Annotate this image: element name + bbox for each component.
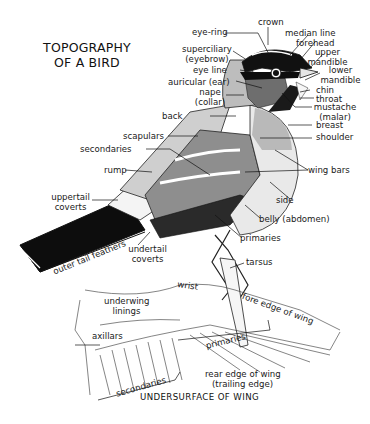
breast-shade	[252, 108, 292, 150]
label-uppertail-coverts: uppertail coverts	[48, 193, 93, 212]
label-breast: breast	[316, 121, 343, 131]
label-wing-bars: wing bars	[308, 166, 350, 176]
label-undertail-coverts-2: coverts	[125, 255, 170, 265]
label-crown: crown	[258, 18, 284, 28]
label-primaries: primaries	[240, 234, 281, 244]
label-eye-line: eye line	[193, 66, 227, 76]
label-tarsus: tarsus	[246, 258, 273, 268]
label-lower-mandible-2: mandible	[318, 76, 363, 86]
label-side: side	[276, 196, 294, 206]
label-rump: rump	[104, 166, 127, 176]
label-superciliary-alt: (eyebrow)	[178, 55, 236, 65]
label-secondaries: secondaries	[80, 145, 132, 155]
label-rear-edge: rear edge of wing (trailing edge)	[205, 370, 280, 389]
label-superciliary: superciliary (eyebrow)	[178, 45, 236, 64]
eye-shape	[273, 70, 279, 76]
label-underwing-linings: underwing linings	[104, 297, 149, 316]
label-scapulars: scapulars	[123, 132, 164, 142]
bill-shape	[300, 68, 318, 78]
label-nape: nape (collar)	[190, 88, 230, 107]
label-back: back	[162, 112, 182, 122]
label-rear-edge-2: (trailing edge)	[205, 380, 280, 390]
label-nape-alt: (collar)	[190, 98, 230, 108]
label-eye-ring: eye-ring	[192, 28, 228, 38]
eye-line-shape	[240, 72, 300, 80]
label-lower-mandible: lower mandible	[318, 66, 363, 85]
label-shoulder: shoulder	[316, 133, 353, 143]
label-underwing-linings-2: linings	[104, 307, 149, 317]
label-undertail-coverts: undertail coverts	[125, 245, 170, 264]
label-belly: belly (abdomen)	[259, 215, 330, 225]
label-axillars: axillars	[92, 332, 123, 342]
caption-undersurface: UNDERSURFACE OF WING	[140, 392, 259, 402]
label-uppertail-coverts-2: coverts	[48, 203, 93, 213]
